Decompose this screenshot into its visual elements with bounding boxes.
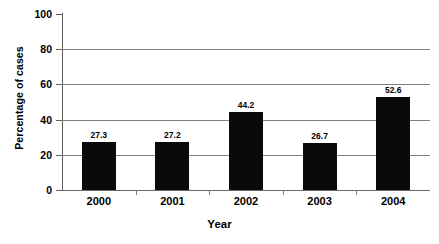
- plot-area: 27.327.244.226.752.6: [62, 14, 430, 190]
- bar-chart: Percentage of cases 020406080100 27.327.…: [0, 0, 439, 244]
- bar-2004: [376, 97, 410, 190]
- x-axis-title: Year: [0, 218, 439, 230]
- bar-value-label-2003: 26.7: [298, 132, 342, 141]
- bar-group: [155, 14, 189, 190]
- bar-value-label-2002: 44.2: [224, 101, 268, 110]
- y-tick-label-100: 100: [0, 9, 52, 20]
- x-category-label-2003: 2003: [290, 196, 350, 207]
- gridline-0: [62, 190, 430, 191]
- x-tick-1: [209, 190, 210, 195]
- x-tick-3: [356, 190, 357, 195]
- y-tick-label-60: 60: [0, 79, 52, 90]
- bar-2001: [155, 142, 189, 190]
- x-tick-0: [136, 190, 137, 195]
- bar-2002: [229, 112, 263, 190]
- y-tick-label-0: 0: [0, 185, 52, 196]
- x-category-label-2002: 2002: [216, 196, 276, 207]
- y-tick-label-80: 80: [0, 44, 52, 55]
- bar-group: [82, 14, 116, 190]
- y-tick-label-20: 20: [0, 150, 52, 161]
- bar-group: [303, 14, 337, 190]
- bar-value-label-2001: 27.2: [150, 131, 194, 140]
- x-category-label-2001: 2001: [142, 196, 202, 207]
- bar-2003: [303, 143, 337, 190]
- bar-value-label-2000: 27.3: [77, 131, 121, 140]
- y-tick-label-40: 40: [0, 115, 52, 126]
- bar-value-label-2004: 52.6: [371, 86, 415, 95]
- bar-group: [376, 14, 410, 190]
- x-tick-2: [283, 190, 284, 195]
- x-category-label-2000: 2000: [69, 196, 129, 207]
- bar-2000: [82, 142, 116, 190]
- x-category-label-2004: 2004: [363, 196, 423, 207]
